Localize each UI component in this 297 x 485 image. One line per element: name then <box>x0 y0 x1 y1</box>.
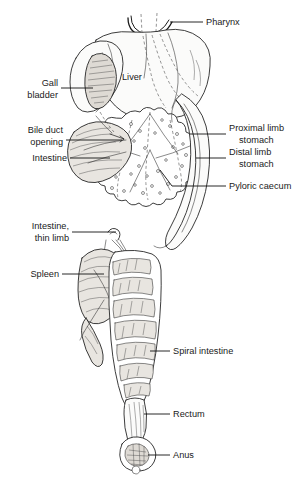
label-spiral-intestine: Spiral intestine <box>173 346 233 356</box>
label-spleen: Spleen <box>30 269 59 279</box>
label-anus: Anus <box>173 450 194 460</box>
spiral-intestine-organ <box>109 250 161 409</box>
label-intestine-thin-line2: thin limb <box>35 233 69 243</box>
label-pyloric-caecum: Pyloric caecum <box>229 181 292 191</box>
label-proximal-line2: stomach <box>239 135 274 145</box>
label-bile-duct-line2: opening <box>30 137 63 147</box>
label-intestine-thin-line1: Intestine, <box>32 221 69 231</box>
label-pharynx: Pharynx <box>206 17 240 27</box>
label-proximal-line1: Proximal limb <box>229 123 284 133</box>
label-distal-line2: stomach <box>239 159 274 169</box>
label-liver: Liver <box>122 72 142 82</box>
label-rectum: Rectum <box>173 409 205 419</box>
label-distal-line1: Distal limb <box>229 147 271 157</box>
label-gall-bladder-line2: bladder <box>27 90 58 100</box>
label-bile-duct-line1: Bile duct <box>28 125 64 135</box>
label-gall-bladder-line1: Gall <box>42 78 58 88</box>
diagram-canvas: Pharynx Liver Gall bladder Bile duct ope… <box>0 0 297 485</box>
label-intestine: Intestine <box>32 153 67 163</box>
